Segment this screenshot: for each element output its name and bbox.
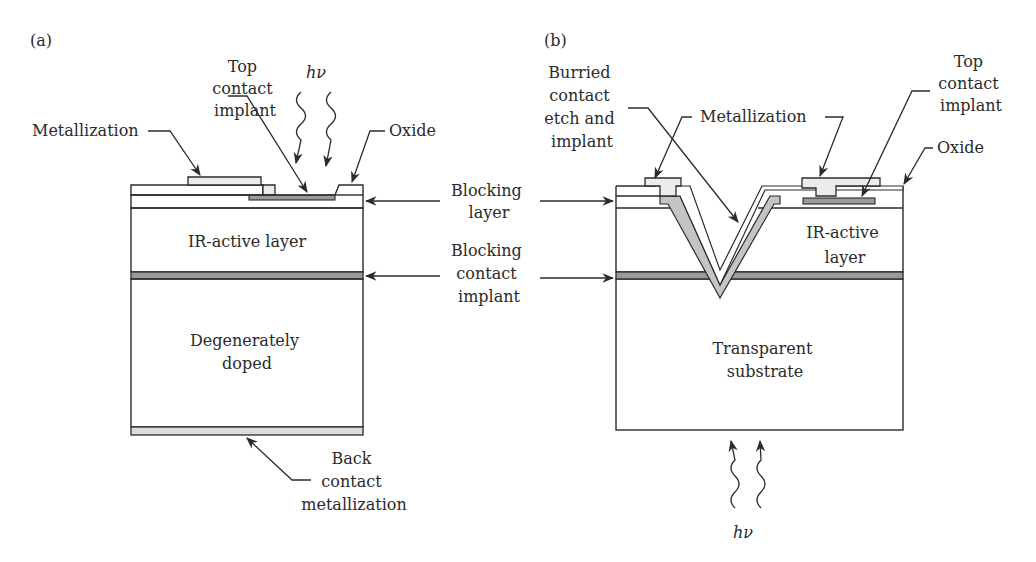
shared-labels: Blocking layer Blocking contact implant <box>366 181 613 306</box>
leader-metallization-b-right <box>820 117 843 176</box>
photon-wave-b-1 <box>731 441 739 508</box>
photon-label-b: hν <box>733 523 753 542</box>
label-buried-contact-b: Burried contact etch and implant <box>544 63 619 151</box>
photon-label-a: hν <box>306 63 326 82</box>
leader-back-contact-a <box>247 438 311 480</box>
label-metallization-b: Metallization <box>700 107 807 126</box>
label-top-contact-implant-a: Top contact implant <box>212 57 277 120</box>
leader-oxide-a <box>352 131 385 182</box>
photon-wave-a-1 <box>296 92 306 163</box>
label-blocking-contact-implant: Blocking contact implant <box>451 241 527 306</box>
back-contact-metal-a <box>131 427 363 435</box>
diagram-canvas: (a) Top contact implant <box>0 0 1036 562</box>
label-blocking-layer: Blocking layer <box>451 181 527 222</box>
metallization-a <box>188 177 275 195</box>
label-oxide-a: Oxide <box>389 121 436 140</box>
label-top-contact-implant-b: Top contact implant <box>938 52 1003 115</box>
label-oxide-b: Oxide <box>937 138 984 157</box>
leader-metallization-a <box>148 131 200 175</box>
label-substrate-a: Degenerately doped <box>190 331 304 373</box>
panel-a-tag: (a) <box>30 31 52 50</box>
label-metallization-a: Metallization <box>32 121 139 140</box>
blocking-contact-implant-b <box>616 272 903 279</box>
photon-wave-a-2 <box>326 92 336 166</box>
label-ir-active-a: IR-active layer <box>188 232 307 251</box>
panel-b: (b) Burried contact <box>544 31 1004 542</box>
label-back-contact-a: Back contact metallization <box>301 449 406 514</box>
top-contact-implant-a <box>249 195 335 200</box>
blocking-contact-implant-a <box>131 272 363 279</box>
photon-wave-b-2 <box>757 441 765 508</box>
device-a <box>131 177 363 435</box>
top-contact-implant-b <box>803 198 875 204</box>
leader-metallization-b-left <box>655 117 692 178</box>
substrate-a <box>131 279 363 427</box>
label-substrate-b: Transparent substrate <box>712 339 817 381</box>
device-b <box>616 178 903 430</box>
label-ir-active-b: IR-active layer <box>806 223 883 267</box>
leader-oxide-b <box>904 148 933 184</box>
oxide-layer-right <box>335 185 363 195</box>
oxide-layer-left <box>131 185 263 195</box>
panel-b-tag: (b) <box>544 31 567 50</box>
panel-a: (a) Top contact implant <box>30 31 436 514</box>
metallization-b-left <box>645 178 681 196</box>
